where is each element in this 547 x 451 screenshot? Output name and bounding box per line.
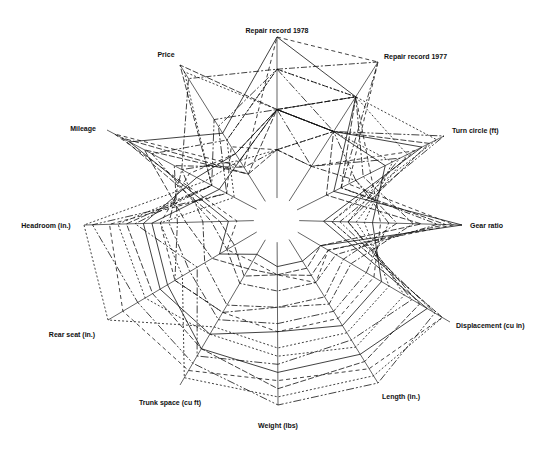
axis-label-gear-ratio: Gear ratio xyxy=(470,222,503,229)
axis-label-turn-circle: Turn circle (ft) xyxy=(452,127,499,135)
axis-label-headroom: Headroom (in.) xyxy=(21,222,70,230)
series-lines xyxy=(84,37,462,405)
axis-label-repair-1977: Repair record 1977 xyxy=(384,53,447,61)
axis-label-length: Length (in.) xyxy=(382,393,420,401)
axis-label-mileage: Mileage xyxy=(70,125,96,133)
axis-label-repair-1978: Repair record 1978 xyxy=(245,27,308,35)
series-polygon xyxy=(115,37,454,283)
radar-chart: Repair record 1978 Repair record 1977 Tu… xyxy=(0,0,547,451)
axis-label-trunk-space: Trunk space (cu ft) xyxy=(139,399,201,407)
axis-label-rear-seat: Rear seat (in.) xyxy=(49,331,95,339)
series-polygon xyxy=(160,69,442,397)
series-polygon xyxy=(118,72,407,356)
series-polygon xyxy=(174,150,397,313)
axis-label-displacement: Displacement (cu in) xyxy=(456,322,524,330)
axis-label-weight: Weight (lbs) xyxy=(258,422,298,430)
axis-labels: Repair record 1978 Repair record 1977 Tu… xyxy=(21,27,524,430)
axis-label-price: Price xyxy=(157,51,174,58)
series-polygon xyxy=(110,147,443,381)
series-polygon xyxy=(169,110,389,324)
